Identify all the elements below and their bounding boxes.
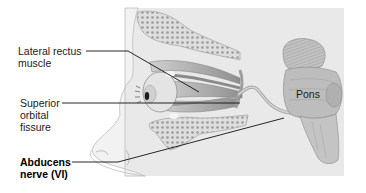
label-abducens-nerve: Abducens nerve (VI) [20,156,71,180]
label-line: muscle [18,57,82,69]
midbrain [283,39,325,71]
label-superior-orbital-fissure: Superior orbital fissure [20,97,60,133]
label-line: orbital [20,109,60,121]
label-line: nerve (VI) [20,168,71,180]
label-line: Superior [20,97,60,109]
label-pons: Pons [296,88,320,100]
anatomy-diagram: Lateral rectus muscle Superior orbital f… [0,0,366,193]
label-line: fissure [20,121,60,133]
label-line: Lateral rectus [18,45,82,57]
pupil [145,92,149,100]
label-lateral-rectus-muscle: Lateral rectus muscle [18,45,82,69]
label-line: Abducens [20,156,71,168]
